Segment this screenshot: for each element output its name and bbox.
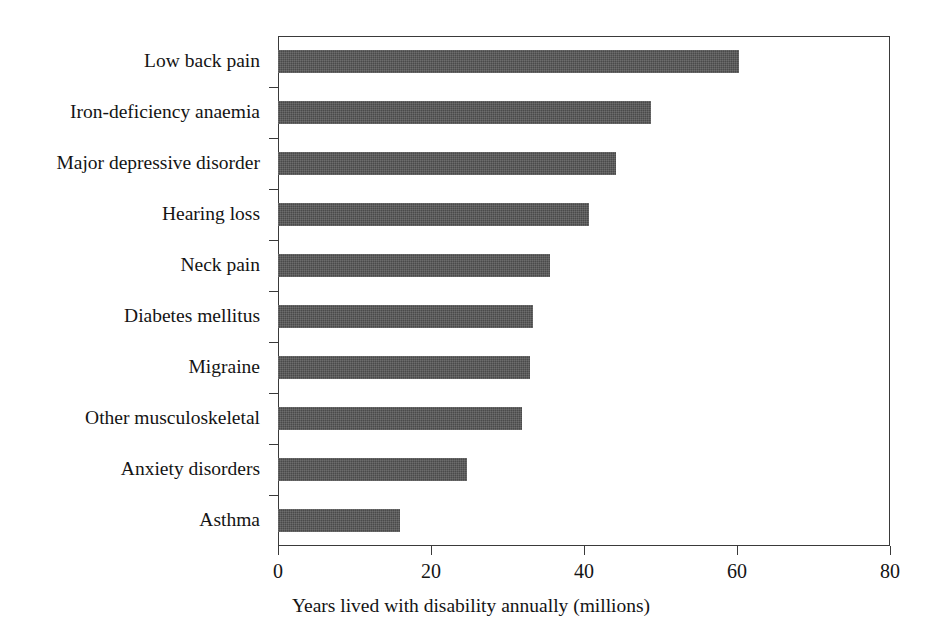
bar (278, 101, 651, 124)
bar (278, 203, 589, 226)
bar-row (278, 36, 890, 87)
x-axis-title: Years lived with disability annually (mi… (0, 594, 942, 618)
value-axis-tick (890, 546, 891, 555)
bar (278, 254, 550, 277)
category-label: Anxiety disorders (0, 458, 260, 480)
bars-container (278, 36, 890, 546)
bar-row (278, 342, 890, 393)
bar-row (278, 240, 890, 291)
value-axis-tick (737, 546, 738, 555)
value-axis-tick-label: 20 (391, 559, 471, 583)
value-axis-tick-label: 0 (238, 559, 318, 583)
bar (278, 305, 533, 328)
value-axis-tick-label: 60 (697, 559, 777, 583)
value-axis-tick (278, 546, 279, 555)
bar (278, 152, 616, 175)
category-label: Diabetes mellitus (0, 305, 260, 327)
value-axis-tick (584, 546, 585, 555)
bar (278, 458, 467, 481)
bar-row (278, 495, 890, 546)
bar (278, 356, 530, 379)
category-label: Other musculoskeletal (0, 407, 260, 429)
bar-row (278, 87, 890, 138)
value-axis-tick-label: 40 (544, 559, 624, 583)
category-label: Major depressive disorder (0, 152, 260, 174)
bar (278, 50, 739, 73)
bar (278, 509, 400, 532)
category-label: Hearing loss (0, 203, 260, 225)
category-label: Migraine (0, 356, 260, 378)
category-label: Asthma (0, 509, 260, 531)
bar-row (278, 393, 890, 444)
category-label: Neck pain (0, 254, 260, 276)
value-axis-tick (431, 546, 432, 555)
value-axis: Years lived with disability annually (mi… (0, 546, 942, 642)
bar (278, 407, 522, 430)
bar-row (278, 291, 890, 342)
category-label: Iron-deficiency anaemia (0, 101, 260, 123)
bar-row (278, 189, 890, 240)
bar-row (278, 138, 890, 189)
category-axis-labels: Low back painIron-deficiency anaemiaMajo… (0, 36, 272, 546)
bar-row (278, 444, 890, 495)
category-label: Low back pain (0, 50, 260, 72)
bar-chart-figure: Low back painIron-deficiency anaemiaMajo… (0, 0, 942, 642)
value-axis-tick-label: 80 (850, 559, 930, 583)
